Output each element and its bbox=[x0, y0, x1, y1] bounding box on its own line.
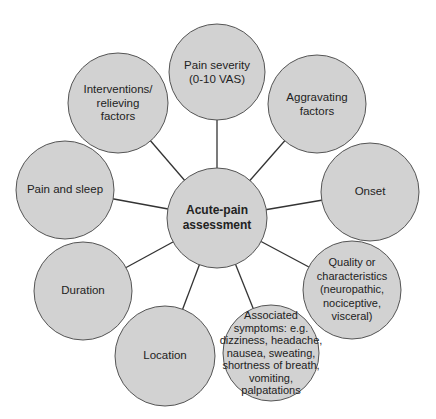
node-label-interventions: Interventions/ relieving factors bbox=[83, 83, 152, 124]
node-label-pain-severity: Pain severity (0-10 VAS) bbox=[184, 59, 250, 86]
node-label-quality: Quality or characteristics (neuropathic,… bbox=[317, 256, 387, 324]
node-label-associated-symptoms: Associated symptoms: e.g. dizziness, hea… bbox=[220, 309, 323, 397]
node-label-onset: Onset bbox=[355, 185, 386, 199]
node-label-duration: Duration bbox=[61, 284, 104, 298]
node-label-pain-and-sleep: Pain and sleep bbox=[27, 183, 103, 197]
node-label-location: Location bbox=[143, 349, 186, 363]
node-label-aggravating-factors: Aggravating factors bbox=[286, 91, 347, 118]
center-node-label: Acute-pain assessment bbox=[183, 203, 252, 233]
